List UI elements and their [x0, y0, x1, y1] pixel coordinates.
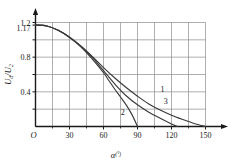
curve-label-3: 3 — [164, 97, 168, 106]
x-tick-label-120: 120 — [166, 131, 178, 140]
y-tick-label-0.8: 0.8 — [21, 53, 31, 62]
x-tick-label-90: 90 — [134, 131, 142, 140]
curve-label-1: 1 — [160, 85, 164, 94]
x-tick-label-30: 30 — [66, 131, 74, 140]
chart-canvas: O3060901201500.40.81.21.17 123 Ud/U2α(°) — [0, 0, 233, 168]
y-axis-title: Ud/U2 — [3, 64, 14, 85]
chart-figure: O3060901201500.40.81.21.17 123 Ud/U2α(°) — [0, 0, 233, 168]
curve-label-2: 2 — [121, 108, 125, 117]
x-tick-label-150: 150 — [200, 131, 212, 140]
x-tick-label-60: 60 — [100, 131, 108, 140]
y-tick-label-1.17: 1.17 — [17, 24, 31, 33]
origin-label: O — [30, 130, 36, 140]
y-tick-label-0.4: 0.4 — [21, 88, 31, 97]
